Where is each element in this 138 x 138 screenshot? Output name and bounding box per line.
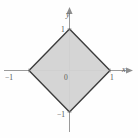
origin-label: 0 xyxy=(64,74,68,82)
filled-diamond-region xyxy=(29,29,110,112)
y-tick-label-negative-one: −1 xyxy=(57,111,65,119)
figure-canvas: y x 1 −1 1 −1 0 xyxy=(0,0,138,138)
y-axis-label: y xyxy=(66,11,70,19)
x-axis-arrow-icon xyxy=(126,67,133,73)
x-axis-label: x xyxy=(122,66,126,74)
x-tick-label-negative-one: −1 xyxy=(5,74,13,82)
x-tick-label-positive-one: 1 xyxy=(110,74,114,82)
y-tick-label-positive-one: 1 xyxy=(61,26,65,34)
coordinate-plot-svg xyxy=(0,0,138,138)
